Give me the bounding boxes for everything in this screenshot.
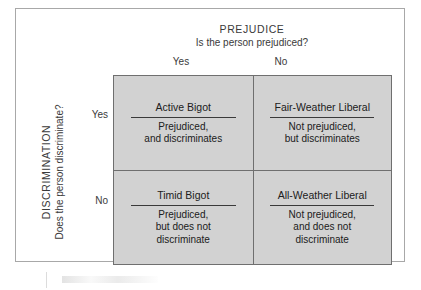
cell-divider-rule <box>131 117 236 118</box>
cell-divider-rule <box>270 205 374 206</box>
matrix-cell-active-bigot: Active Bigot Prejudiced, and discriminat… <box>114 76 253 170</box>
column-axis-question: Is the person prejudiced? <box>111 36 393 49</box>
column-tick-no: No <box>261 56 301 67</box>
typology-matrix-figure: PREJUDICE Is the person prejudiced? Yes … <box>0 0 421 290</box>
matrix-cell-fair-weather-liberal: Fair-Weather Liberal Not prejudiced, but… <box>253 76 392 170</box>
row-axis-title: DISCRIMINATION <box>40 72 53 272</box>
scan-artifact-smudge <box>62 276 158 283</box>
matrix-grid: Active Bigot Prejudiced, and discriminat… <box>113 75 392 265</box>
cell-title: All-Weather Liberal <box>278 189 367 202</box>
cell-description: Not prejudiced, and does not discriminat… <box>289 209 356 247</box>
cell-title: Active Bigot <box>156 101 211 114</box>
cell-divider-rule <box>270 117 374 118</box>
column-axis-heading: PREJUDICE Is the person prejudiced? <box>111 23 393 49</box>
column-axis-title: PREJUDICE <box>111 23 393 36</box>
cell-description: Prejudiced, and discriminates <box>144 121 222 146</box>
cell-title: Fair-Weather Liberal <box>274 101 370 114</box>
row-tick-yes: Yes <box>78 109 108 120</box>
cell-divider-rule <box>131 205 236 206</box>
scan-artifact-tick <box>46 272 47 288</box>
cell-description: Prejudiced, but does not discriminate <box>156 209 211 247</box>
matrix-cell-all-weather-liberal: All-Weather Liberal Not prejudiced, and … <box>253 170 392 264</box>
row-axis-question: Does the person discriminate? <box>53 72 66 272</box>
matrix-cell-timid-bigot: Timid Bigot Prejudiced, but does not dis… <box>114 170 253 264</box>
cell-title: Timid Bigot <box>157 189 209 202</box>
figure-frame: PREJUDICE Is the person prejudiced? Yes … <box>15 8 405 262</box>
row-axis-heading: DISCRIMINATION Does the person discrimin… <box>40 72 66 272</box>
cell-description: Not prejudiced, but discriminates <box>285 121 360 146</box>
column-tick-yes: Yes <box>161 56 201 67</box>
row-tick-no: No <box>78 195 108 206</box>
